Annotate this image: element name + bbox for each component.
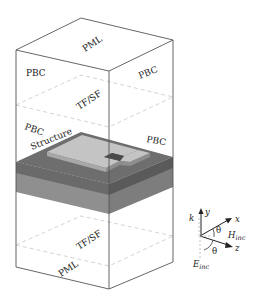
- label-tfsf-upper: TF/SF: [75, 88, 104, 111]
- label-theta-upper: θ: [216, 225, 221, 235]
- label-tfsf-lower: TF/SF: [75, 228, 104, 251]
- label-pbc-right-upper: PBC: [137, 64, 159, 81]
- label-y-axis: y: [204, 207, 210, 217]
- label-e-inc: Einc: [192, 259, 209, 271]
- label-theta-lower: θ: [212, 246, 217, 256]
- label-x-axis: x: [235, 214, 240, 224]
- simulation-domain-diagram: PML PBC PBC TF/SF PBC Structure PBC TF/S…: [0, 0, 259, 301]
- y-arrowhead-icon: [199, 208, 204, 214]
- label-pbc-right-middle: PBC: [146, 134, 167, 147]
- label-pml-top: PML: [81, 34, 104, 54]
- label-k-vector: k: [189, 213, 194, 223]
- label-h-inc: Hinc: [227, 230, 246, 242]
- theta-arc-upper: [213, 229, 214, 237]
- label-z-axis: z: [234, 243, 240, 253]
- label-pml-bottom: PML: [57, 259, 80, 279]
- label-pbc-left-middle: PBC: [23, 121, 45, 137]
- label-pbc-left-upper: PBC: [26, 68, 46, 78]
- z-arrowhead-icon: [225, 242, 233, 248]
